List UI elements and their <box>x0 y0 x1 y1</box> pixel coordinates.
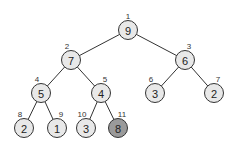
node-index-label: 3 <box>187 42 192 51</box>
heap-tree-diagram: 917263544536272819310811 <box>0 0 236 148</box>
node-value: 3 <box>152 88 158 100</box>
node-value: 7 <box>68 55 74 67</box>
node-value: 2 <box>211 88 217 100</box>
node-index-label: 2 <box>65 42 70 51</box>
tree-node: 27 <box>205 75 224 103</box>
node-value: 1 <box>54 123 60 135</box>
tree-node: 36 <box>146 75 165 103</box>
node-value: 2 <box>21 123 27 135</box>
tree-node: 45 <box>92 75 111 103</box>
node-index-label: 5 <box>103 75 108 84</box>
node-index-label: 8 <box>18 110 23 119</box>
node-index-label: 10 <box>78 110 87 119</box>
tree-nodes: 917263544536272819310811 <box>15 12 224 138</box>
tree-node: 54 <box>32 75 51 103</box>
node-value: 3 <box>83 123 89 135</box>
tree-node: 72 <box>62 42 81 70</box>
node-index-label: 11 <box>118 110 127 119</box>
node-value: 6 <box>182 55 188 67</box>
node-index-label: 6 <box>149 75 154 84</box>
tree-node: 63 <box>176 42 195 70</box>
node-value: 8 <box>115 123 121 135</box>
node-value: 4 <box>98 88 104 100</box>
node-value: 9 <box>125 25 131 37</box>
node-index-label: 9 <box>59 110 64 119</box>
node-value: 5 <box>38 88 44 100</box>
node-index-label: 4 <box>35 75 40 84</box>
node-index-label: 7 <box>216 75 221 84</box>
tree-node: 91 <box>119 12 138 40</box>
node-index-label: 1 <box>126 12 131 21</box>
